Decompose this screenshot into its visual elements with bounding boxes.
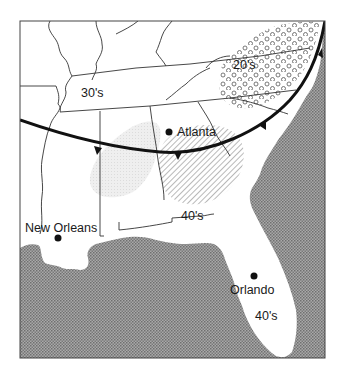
- weather-map: Atlanta New Orleans Orlando 30's 20's 40…: [0, 0, 362, 388]
- city-dot-orlando: [251, 273, 258, 280]
- city-label-orlando: Orlando: [230, 283, 275, 297]
- temp-label-20s: 20's: [233, 58, 256, 72]
- temp-label-40s-georgia: 40's: [181, 209, 204, 223]
- city-label-atlanta: Atlanta: [177, 125, 216, 139]
- city-label-new-orleans: New Orleans: [25, 221, 97, 235]
- city-dot-new-orleans: [55, 235, 62, 242]
- city-dot-atlanta: [166, 129, 173, 136]
- temp-label-40s-florida: 40's: [255, 309, 278, 323]
- temp-label-30s: 30's: [81, 86, 104, 100]
